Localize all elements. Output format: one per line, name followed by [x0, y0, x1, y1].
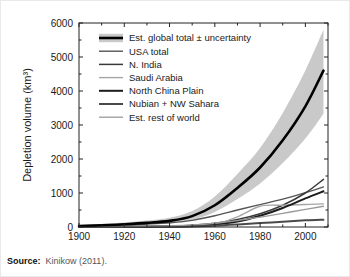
source-text: Kinikow (2011).: [46, 256, 107, 266]
x-axis-tick-label: 2000: [294, 231, 317, 242]
legend-label-1: Est. global total ± uncertainty: [129, 32, 251, 43]
chart-plot-area: 0100020003000400050006000190019201940196…: [1, 1, 350, 249]
legend-label-6: Nubian + NW Sahara: [129, 98, 220, 109]
x-axis-tick-label: 1940: [158, 231, 181, 242]
source-label: Source:: [7, 256, 41, 266]
y-axis-tick-label: 6000: [51, 18, 74, 29]
x-axis-tick-label: 1920: [113, 231, 136, 242]
y-axis-tick-label: 5000: [51, 52, 74, 63]
figure-container: 0100020003000400050006000190019201940196…: [0, 0, 350, 277]
x-axis-tick-label: 1980: [249, 231, 272, 242]
legend-label-4: Saudi Arabia: [129, 72, 184, 83]
x-axis-tick-label: 1960: [204, 231, 227, 242]
legend-label-3: N. India: [129, 59, 162, 70]
x-axis-tick-label: 1900: [68, 231, 91, 242]
y-axis-tick-label: 1000: [51, 188, 74, 199]
legend-label-5: North China Plain: [129, 85, 203, 96]
legend-label-2: USA total: [129, 46, 169, 57]
y-axis-tick-label: 3000: [51, 120, 74, 131]
legend-label-7: Est. rest of world: [129, 112, 200, 123]
series-line-3: [79, 179, 323, 227]
y-axis-tick-label: 2000: [51, 154, 74, 165]
y-axis-tick-label: 4000: [51, 86, 74, 97]
uncertainty-band: [79, 30, 323, 227]
y-axis-title: Depletion volume (km³): [21, 68, 33, 182]
source-caption: Source:Kinikow (2011).: [7, 256, 107, 267]
groundwater-depletion-line-chart: 0100020003000400050006000190019201940196…: [1, 1, 350, 249]
